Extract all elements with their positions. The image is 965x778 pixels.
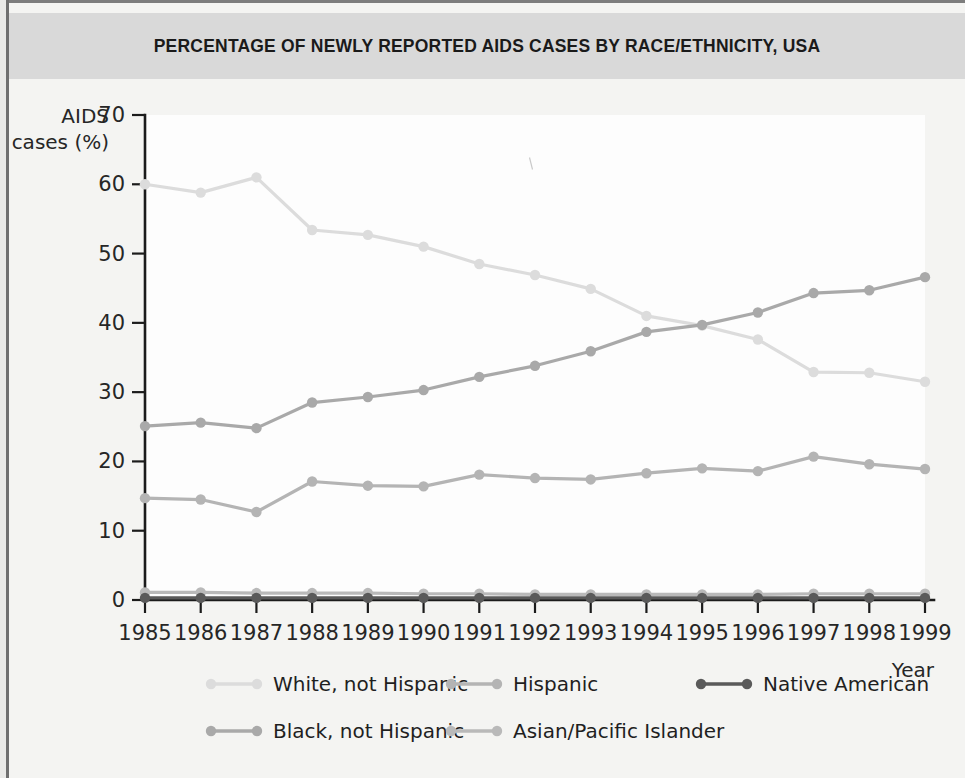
line-chart: 0102030405060701985198619871988198919901…	[9, 79, 965, 778]
data-point	[418, 481, 428, 491]
y-axis-tick-label: 30	[98, 380, 125, 404]
data-point	[140, 179, 150, 189]
series-native-american	[140, 593, 930, 603]
data-point	[641, 468, 651, 478]
data-point	[808, 451, 818, 461]
data-point	[363, 230, 373, 240]
y-axis-tick-label: 40	[98, 311, 125, 335]
data-point	[251, 423, 261, 433]
data-point	[474, 372, 484, 382]
data-point	[307, 593, 317, 603]
data-point	[474, 259, 484, 269]
x-axis-tick-label: 1995	[675, 621, 728, 645]
legend-label: Black, not Hispanic	[273, 719, 464, 743]
y-axis-tick-label: 10	[98, 519, 125, 543]
data-point	[586, 284, 596, 294]
data-point	[474, 469, 484, 479]
data-point	[753, 307, 763, 317]
x-axis-tick-label: 1986	[174, 621, 227, 645]
page-top-rule	[9, 0, 965, 3]
data-point	[864, 285, 874, 295]
legend-swatch-dot-right	[492, 679, 502, 689]
chart-container: 0102030405060701985198619871988198919901…	[9, 79, 965, 778]
x-axis-tick-label: 1992	[508, 621, 561, 645]
data-point	[864, 593, 874, 603]
legend-swatch-dot-left	[206, 726, 216, 736]
data-point	[307, 225, 317, 235]
data-point	[753, 593, 763, 603]
data-point	[753, 334, 763, 344]
y-axis-tick-label: 0	[112, 588, 125, 612]
y-axis-title-line1: AIDS	[61, 104, 109, 128]
data-point	[641, 327, 651, 337]
data-point	[530, 270, 540, 280]
y-axis-title-line2: cases (%)	[12, 130, 109, 154]
legend-swatch-dot-left	[696, 679, 706, 689]
data-point	[418, 593, 428, 603]
data-point	[697, 593, 707, 603]
data-point	[363, 480, 373, 490]
data-point	[920, 464, 930, 474]
data-point	[196, 593, 206, 603]
data-point	[474, 593, 484, 603]
legend-item[interactable]: Black, not Hispanic	[206, 719, 464, 743]
data-point	[530, 593, 540, 603]
data-point	[920, 593, 930, 603]
data-point	[641, 593, 651, 603]
x-axis-tick-label: 1985	[118, 621, 171, 645]
data-point	[196, 494, 206, 504]
x-axis-tick-label: 1991	[453, 621, 506, 645]
legend-swatch-dot-left	[446, 726, 456, 736]
data-point	[140, 593, 150, 603]
data-point	[418, 241, 428, 251]
x-axis-tick-label: 1989	[341, 621, 394, 645]
data-point	[196, 417, 206, 427]
legend-item[interactable]: Asian/Pacific Islander	[446, 719, 725, 743]
data-point	[530, 473, 540, 483]
legend-item[interactable]: Hispanic	[446, 672, 598, 696]
legend-swatch-dot-left	[446, 679, 456, 689]
data-point	[808, 367, 818, 377]
x-axis-tick-label: 1990	[397, 621, 450, 645]
data-point	[808, 593, 818, 603]
legend-label: Native American	[763, 672, 929, 696]
data-point	[140, 421, 150, 431]
data-point	[251, 593, 261, 603]
data-point	[920, 377, 930, 387]
plot-background	[145, 115, 925, 600]
data-point	[530, 361, 540, 371]
legend-item[interactable]: White, not Hispanic	[206, 672, 468, 696]
legend-label: Asian/Pacific Islander	[513, 719, 725, 743]
x-axis-tick-label: 1994	[620, 621, 673, 645]
legend-swatch-dot-right	[252, 726, 262, 736]
y-axis-tick-label: 20	[98, 449, 125, 473]
legend-swatch-dot-right	[252, 679, 262, 689]
page-root: PERCENTAGE OF NEWLY REPORTED AIDS CASES …	[0, 0, 965, 778]
chart-title-banner: PERCENTAGE OF NEWLY REPORTED AIDS CASES …	[9, 13, 965, 79]
legend-swatch-dot-right	[492, 726, 502, 736]
legend-label: White, not Hispanic	[273, 672, 468, 696]
data-point	[251, 507, 261, 517]
data-point	[697, 320, 707, 330]
data-point	[586, 346, 596, 356]
data-point	[586, 474, 596, 484]
data-point	[307, 397, 317, 407]
legend-label: Hispanic	[513, 672, 598, 696]
data-point	[808, 288, 818, 298]
legend-swatch-dot-left	[206, 679, 216, 689]
legend-swatch-dot-right	[742, 679, 752, 689]
data-point	[920, 272, 930, 282]
data-point	[753, 466, 763, 476]
legend-item[interactable]: Native American	[696, 672, 929, 696]
x-axis-tick-label: 1993	[564, 621, 617, 645]
x-axis-tick-label: 1996	[731, 621, 784, 645]
chart-legend: White, not HispanicHispanicNative Americ…	[206, 672, 929, 743]
data-point	[697, 463, 707, 473]
x-axis-tick-label: 1987	[230, 621, 283, 645]
x-axis-tick-label: 1998	[843, 621, 896, 645]
data-point	[140, 493, 150, 503]
y-axis-tick-label: 50	[98, 242, 125, 266]
chart-title: PERCENTAGE OF NEWLY REPORTED AIDS CASES …	[154, 36, 820, 57]
x-axis-tick-label: 1988	[285, 621, 338, 645]
data-point	[864, 368, 874, 378]
